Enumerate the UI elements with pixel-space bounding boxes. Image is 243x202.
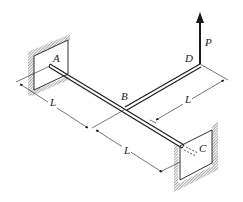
label-b: B (121, 90, 128, 102)
fixed-support-c (174, 122, 218, 192)
dim-label-bd: L (184, 93, 191, 105)
fixed-support-a (28, 34, 70, 96)
dim-label-ab: L (49, 96, 56, 108)
label-p: P (204, 36, 212, 48)
label-a: A (52, 52, 60, 64)
dim-label-bc: L (123, 144, 130, 156)
label-d: D (184, 52, 193, 64)
label-c: C (199, 142, 207, 154)
arrow-head-icon (196, 12, 204, 23)
structure-diagram: A B C D P L L L (0, 0, 243, 202)
load-p-arrow (196, 12, 204, 64)
shaft-ac (49, 64, 184, 148)
